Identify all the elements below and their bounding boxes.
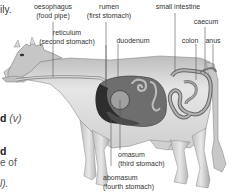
label-caecum: caecum (194, 18, 219, 26)
udder (150, 140, 172, 150)
label-anus: anus (205, 37, 220, 45)
label-rumen-sub: (first stomach) (87, 12, 131, 20)
label-reticulum-sub: (second stomach) (39, 38, 95, 46)
label-rumen: rumen (99, 3, 119, 11)
label-reticulum: reticulum (53, 29, 81, 37)
cow-diagram (0, 0, 229, 192)
label-oesophagus-sub: (food pipe) (36, 12, 69, 20)
label-small-intestine: small intestine (156, 3, 200, 11)
label-abomasum-sub: (fourth stomach) (103, 183, 154, 191)
label-abomasum: abomasum (103, 174, 138, 182)
label-duodenum: duodenum (116, 37, 149, 45)
label-colon: colon (182, 37, 199, 45)
eye-icon (20, 54, 24, 56)
label-omasum: omasum (118, 151, 145, 159)
label-omasum-sub: (third stomach) (118, 160, 165, 168)
label-oesophagus: oesophagus (34, 3, 72, 11)
